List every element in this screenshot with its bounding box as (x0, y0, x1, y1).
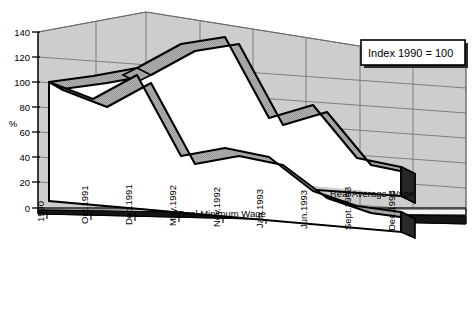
x-axis-labels: 1990 Oct.1991 Dec.1991 May.1992 Nov.1992… (35, 184, 397, 231)
chart-container: 140 120 100 80 60 40 20 0 % (0, 0, 476, 328)
y-axis: 140 120 100 80 60 40 20 0 % (9, 27, 40, 214)
y-axis-title: % (9, 118, 18, 129)
y-tick-40: 40 (19, 152, 30, 163)
x-tick-dec-1993: Dec.1993 (386, 190, 397, 231)
y-tick-0: 0 (25, 203, 30, 214)
y-tick-120: 120 (14, 52, 30, 63)
x-tick-may-1992: May.1992 (167, 185, 178, 226)
y-tick-80: 80 (19, 102, 30, 113)
y-tick-140: 140 (14, 27, 30, 38)
x-tick-1990: 1990 (35, 201, 46, 222)
x-tick-jan-1993: Jan.1993 (254, 189, 265, 228)
x-tick-dec-1991: Dec.1991 (123, 184, 134, 225)
y-tick-100: 100 (14, 77, 30, 88)
x-tick-nov-1992: Nov.1992 (211, 187, 222, 227)
x-tick-jun-1993: Jun.1993 (298, 190, 309, 229)
legend-box: Index 1990 = 100 (361, 40, 468, 68)
y-tick-60: 60 (19, 127, 30, 138)
legend-text: Index 1990 = 100 (368, 47, 453, 59)
y-tick-20: 20 (19, 177, 30, 188)
x-tick-oct-1991: Oct.1991 (79, 185, 90, 224)
x-tick-sept-1993: Sept.1993 (342, 187, 353, 230)
wage-index-3d-area-chart: 140 120 100 80 60 40 20 0 % (0, 0, 476, 328)
